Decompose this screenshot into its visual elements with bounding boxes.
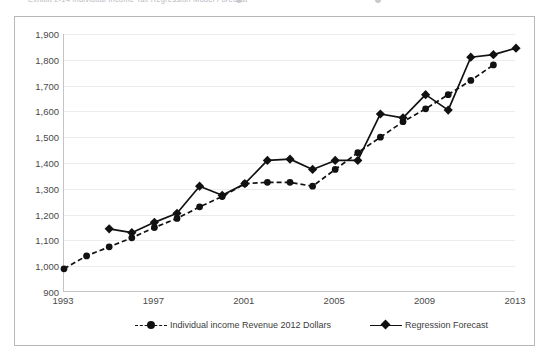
- circle-marker-icon: [61, 265, 68, 272]
- legend-swatch: [135, 320, 167, 331]
- diamond-marker-icon: [489, 50, 498, 59]
- diamond-marker-icon: [127, 228, 136, 237]
- legend-label: Individual income Revenue 2012 Dollars: [170, 320, 331, 330]
- clipped-header-text: Exhibit 2-14 Individual Income Tax Regre…: [28, 0, 247, 4]
- circle-marker-icon: [264, 179, 271, 186]
- legend-item: Regression Forecast: [370, 317, 488, 333]
- circle-marker-icon: [287, 179, 294, 186]
- clipped-diamond-marker-icon: [375, 0, 381, 3]
- x-axis-tick-label: 2009: [414, 295, 435, 306]
- circle-marker-icon: [83, 252, 90, 259]
- circle-marker-icon: [377, 134, 384, 141]
- y-axis-tick-label: 1,700: [15, 80, 59, 91]
- y-axis-tick-label: 1,400: [15, 158, 59, 169]
- y-axis-tick-label: 1,200: [15, 209, 59, 220]
- diamond-marker-icon: [353, 156, 362, 165]
- circle-marker-icon: [309, 183, 316, 190]
- diamond-marker-icon: [308, 165, 317, 174]
- y-axis-tick-label: 1,900: [15, 29, 59, 40]
- y-axis-tick-label: 1,600: [15, 106, 59, 117]
- diamond-marker-icon: [150, 218, 159, 227]
- x-axis-tick-label: 2005: [324, 295, 345, 306]
- circle-marker-icon: [445, 91, 452, 98]
- circle-marker-icon: [467, 77, 474, 84]
- x-axis: 199319972001200520092013: [63, 295, 515, 311]
- circle-marker-icon: [332, 166, 339, 173]
- circle-marker-icon: [147, 321, 155, 329]
- chart-legend: Individual income Revenue 2012 DollarsRe…: [15, 317, 536, 341]
- diamond-marker-icon: [285, 155, 294, 164]
- circle-marker-icon: [106, 243, 113, 250]
- series-layer: [64, 34, 516, 292]
- chart-figure: Exhibit 2-14 Individual Income Tax Regre…: [0, 0, 549, 353]
- diamond-marker-icon: [381, 320, 391, 330]
- diamond-marker-icon: [331, 156, 340, 165]
- diamond-marker-icon: [466, 53, 475, 62]
- y-axis-tick-label: 1,800: [15, 54, 59, 65]
- circle-marker-icon: [196, 203, 203, 210]
- y-axis: 1,9001,8001,7001,6001,5001,4001,3001,200…: [15, 34, 59, 292]
- chart-border: 1,9001,8001,7001,6001,5001,4001,3001,200…: [14, 16, 535, 346]
- plot-area: [63, 34, 515, 292]
- diamond-marker-icon: [105, 224, 114, 233]
- y-axis-tick-label: 1,500: [15, 132, 59, 143]
- y-axis-tick-label: 1,100: [15, 235, 59, 246]
- legend-swatch: [370, 320, 402, 331]
- legend-item: Individual income Revenue 2012 Dollars: [135, 317, 331, 333]
- series-line: [109, 48, 516, 232]
- x-axis-tick-label: 2001: [233, 295, 254, 306]
- legend-label: Regression Forecast: [405, 320, 488, 330]
- clipped-header-strip: Exhibit 2-14 Individual Income Tax Regre…: [0, 0, 549, 12]
- circle-marker-icon: [422, 105, 429, 112]
- y-axis-tick-label: 1,300: [15, 183, 59, 194]
- diamond-marker-icon: [511, 44, 520, 53]
- x-axis-tick-label: 1993: [52, 295, 73, 306]
- diamond-marker-icon: [376, 109, 385, 118]
- x-axis-tick-label: 2013: [504, 295, 525, 306]
- y-axis-tick-label: 1,000: [15, 261, 59, 272]
- x-axis-tick-label: 1997: [143, 295, 164, 306]
- circle-marker-icon: [490, 62, 497, 69]
